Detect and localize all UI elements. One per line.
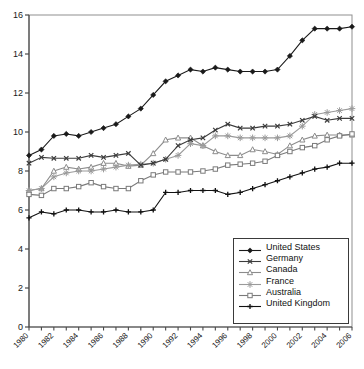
data-point-asterisk <box>175 152 182 159</box>
data-point-square <box>151 173 155 177</box>
data-point-square <box>275 153 279 157</box>
data-point-square <box>114 186 118 190</box>
x-axis-tick-label: 1980 <box>11 331 30 350</box>
data-point-square <box>350 132 354 136</box>
legend-item-canada[interactable]: Canada <box>237 264 344 275</box>
x-axis-tick-label: 1988 <box>111 331 130 350</box>
data-point-square <box>201 169 205 173</box>
legend-marker-diamond-icon <box>237 242 263 253</box>
legend-marker-square-icon <box>237 287 263 298</box>
legend-marker-triangle-icon <box>237 264 263 275</box>
data-point-square <box>163 170 167 174</box>
line-chart: 0246810121416198019821984198619881990199… <box>0 0 364 369</box>
data-point-asterisk <box>88 168 95 175</box>
data-point-asterisk <box>249 135 256 142</box>
data-point-square <box>325 138 329 142</box>
legend-label: Canada <box>263 264 298 275</box>
y-axis-tick-label: 2 <box>18 283 23 293</box>
legend-marker-asterisk-icon <box>237 276 263 287</box>
data-point-square <box>188 170 192 174</box>
data-point-asterisk <box>349 105 356 112</box>
legend-marker-x-icon <box>237 253 263 264</box>
data-point-square <box>313 143 317 147</box>
data-point-square <box>27 192 31 196</box>
x-axis-tick-label: 1982 <box>36 331 55 350</box>
y-axis-tick-label: 10 <box>13 127 23 137</box>
x-axis-tick-label: 1992 <box>161 331 180 350</box>
legend-item-united-kingdom[interactable]: United Kingdom <box>237 298 344 309</box>
chart-legend: United StatesGermanyCanadaFranceAustrali… <box>233 238 349 324</box>
data-point-asterisk <box>299 123 306 130</box>
data-point-asterisk <box>138 161 145 168</box>
data-point-asterisk <box>100 166 107 173</box>
x-axis-tick-label: 1994 <box>185 331 204 350</box>
data-point-square <box>263 159 267 163</box>
data-point-square <box>52 186 56 190</box>
x-axis-tick-label: 1996 <box>210 331 229 350</box>
data-point-asterisk <box>200 142 207 149</box>
data-point-asterisk <box>51 174 58 181</box>
legend-label: France <box>263 276 294 287</box>
y-axis-tick-label: 6 <box>18 205 23 215</box>
legend-label: Germany <box>263 253 303 264</box>
y-axis-tick-label: 12 <box>13 88 23 98</box>
data-point-square <box>288 149 292 153</box>
x-axis-tick-label: 1984 <box>61 331 80 350</box>
data-point-square <box>337 134 341 138</box>
data-point-square <box>139 179 143 183</box>
data-point-asterisk <box>212 133 219 140</box>
x-axis-tick-label: 1990 <box>136 331 155 350</box>
x-axis-tick-label: 1986 <box>86 331 105 350</box>
data-point-square <box>300 145 304 149</box>
data-point-square <box>176 170 180 174</box>
data-point-asterisk <box>125 162 132 169</box>
x-axis-tick-label: 1998 <box>235 331 254 350</box>
data-point-triangle <box>247 270 252 275</box>
data-point-square <box>248 293 252 297</box>
y-axis-tick-label: 16 <box>13 10 23 20</box>
data-point-square <box>89 181 93 185</box>
data-point-square <box>238 162 242 166</box>
x-axis-tick-label: 2004 <box>310 331 329 350</box>
x-axis-tick-label: 2000 <box>260 331 279 350</box>
data-point-square <box>126 186 130 190</box>
x-axis-tick-label: 2006 <box>334 331 353 350</box>
data-point-asterisk <box>38 185 45 192</box>
data-point-square <box>64 186 68 190</box>
data-point-asterisk <box>237 135 244 142</box>
data-point-square <box>101 184 105 188</box>
data-point-square <box>213 167 217 171</box>
data-point-asterisk <box>224 133 231 140</box>
legend-label: Australia <box>263 287 301 298</box>
y-axis-tick-label: 4 <box>18 244 23 254</box>
y-axis-tick-label: 14 <box>13 49 23 59</box>
data-point-square <box>76 184 80 188</box>
y-axis-tick-label: 0 <box>18 322 23 332</box>
x-axis-tick-label: 2002 <box>285 331 304 350</box>
legend-label: United States <box>263 242 320 253</box>
data-point-square <box>39 193 43 197</box>
legend-marker-plus-icon <box>237 298 263 309</box>
data-point-plus <box>247 304 252 309</box>
legend-item-france[interactable]: France <box>237 276 344 287</box>
legend-item-australia[interactable]: Australia <box>237 287 344 298</box>
legend-item-united-states[interactable]: United States <box>237 242 344 253</box>
data-point-asterisk <box>287 133 294 140</box>
data-point-asterisk <box>113 164 120 171</box>
data-point-square <box>226 163 230 167</box>
data-point-square <box>250 161 254 165</box>
legend-label: United Kingdom <box>263 298 330 309</box>
y-axis-tick-label: 8 <box>18 166 23 176</box>
legend-item-germany[interactable]: Germany <box>237 253 344 264</box>
